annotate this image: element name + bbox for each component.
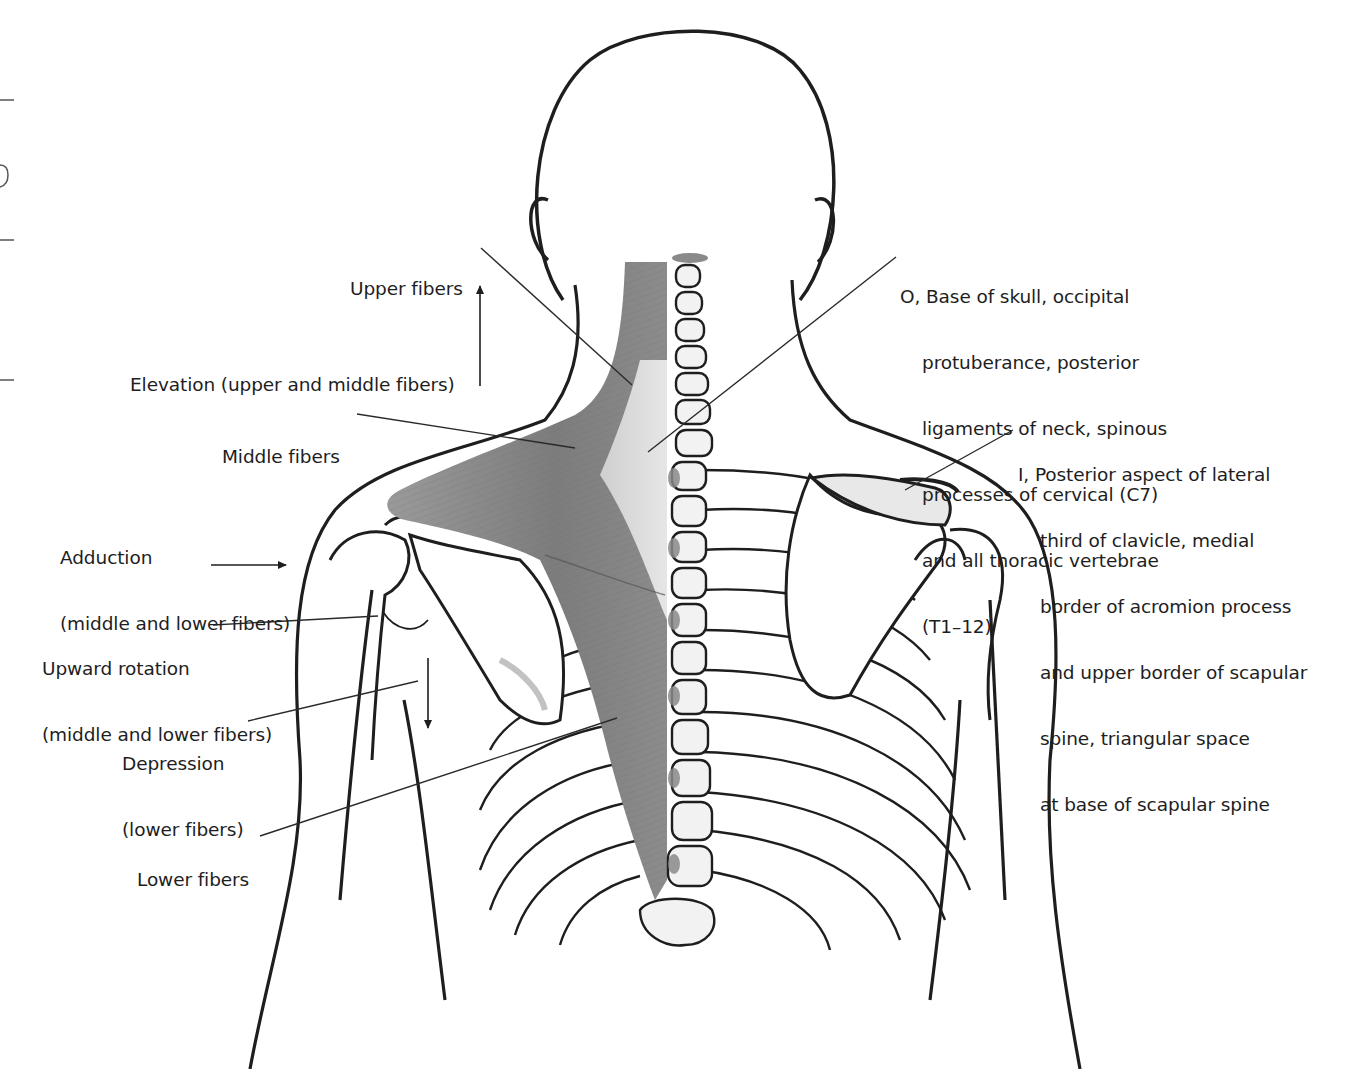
label-text: Lower fibers: [137, 869, 249, 891]
trapezius-diagram: Upper fibers Elevation (upper and middle…: [0, 0, 1360, 1069]
label-text: at base of scapular spine: [1018, 794, 1307, 816]
label-text: Elevation (upper and middle fibers): [130, 374, 455, 396]
label-text: protuberance, posterior: [900, 352, 1167, 374]
label-middle-fibers: Middle fibers: [222, 402, 340, 512]
label-text: Upward rotation: [42, 658, 272, 680]
label-text: border of acromion process: [1018, 596, 1307, 618]
leader-line-depression: [248, 681, 418, 721]
label-text: spine, triangular space: [1018, 728, 1307, 750]
label-text: Upper fibers: [350, 278, 463, 300]
edge-artifacts: [0, 100, 14, 380]
label-lower-fibers: Lower fibers: [137, 825, 249, 935]
label-text: and upper border of scapular: [1018, 662, 1307, 684]
label-text: Depression: [122, 753, 244, 775]
label-text: Adduction: [60, 547, 290, 569]
origin-prefix: O,: [900, 286, 920, 307]
label-upper-fibers: Upper fibers: [350, 234, 463, 344]
label-text: third of clavicle, medial: [1018, 530, 1307, 552]
label-text: Base of skull, occipital: [926, 286, 1129, 307]
label-text: Middle fibers: [222, 446, 340, 468]
label-insertion: I, Posterior aspect of lateral third of …: [1018, 420, 1307, 860]
insertion-prefix: I,: [1018, 464, 1029, 485]
label-text: Posterior aspect of lateral: [1035, 464, 1270, 485]
leader-line-lower-fibers: [260, 718, 617, 836]
